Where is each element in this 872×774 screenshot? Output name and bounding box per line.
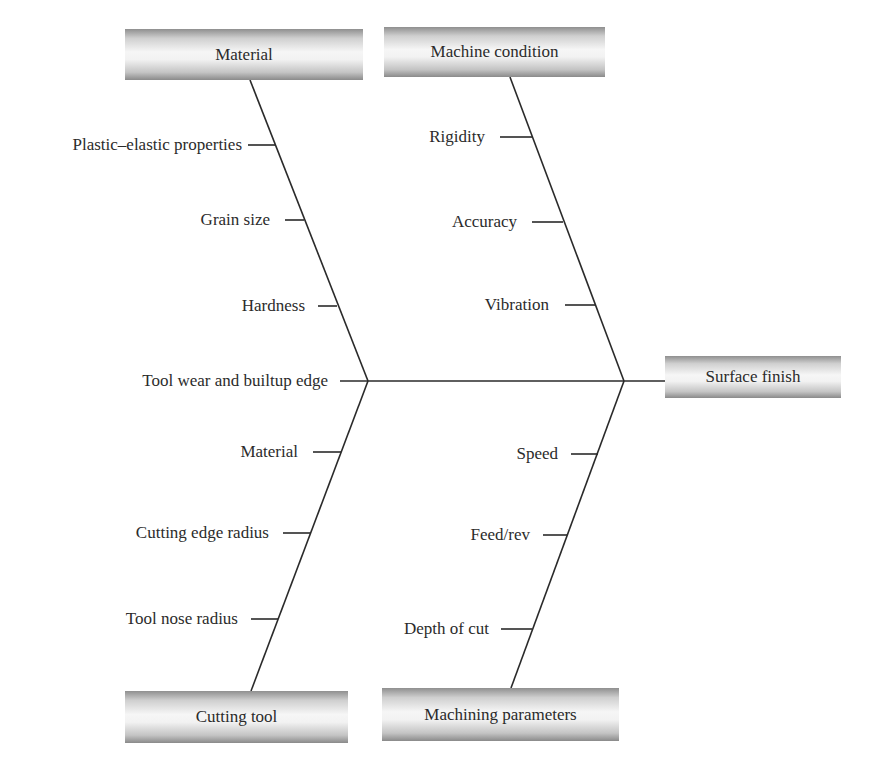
cause-feed-rev: Feed/rev [471,525,530,545]
category-material: Material [125,29,363,80]
cause-rigidity: Rigidity [429,127,485,147]
category-label: Machining parameters [424,705,576,725]
cause-hardness: Hardness [242,296,305,316]
category-machine-condition: Machine condition [384,27,605,77]
category-label: Cutting tool [196,707,278,727]
cause-accuracy: Accuracy [452,212,517,232]
bone-material [250,80,368,381]
category-label: Material [215,45,273,65]
cause-tool-material: Material [240,442,298,462]
cause-plastic-elastic-properties: Plastic–elastic properties [73,135,242,155]
cause-speed: Speed [516,444,558,464]
cause-grain-size: Grain size [201,210,270,230]
cause-tool-wear-builtup-edge: Tool wear and builtup edge [142,371,328,391]
effect-label: Surface finish [706,367,801,387]
category-label: Machine condition [431,42,559,62]
effect-surface-finish: Surface finish [665,356,841,398]
category-machining-parameters: Machining parameters [382,688,619,741]
cause-cutting-edge-radius: Cutting edge radius [136,523,269,543]
cause-tool-nose-radius: Tool nose radius [126,609,238,629]
cause-vibration: Vibration [485,295,549,315]
bone-machine-condition [510,77,624,381]
cause-depth-of-cut: Depth of cut [404,619,489,639]
category-cutting-tool: Cutting tool [125,691,348,743]
